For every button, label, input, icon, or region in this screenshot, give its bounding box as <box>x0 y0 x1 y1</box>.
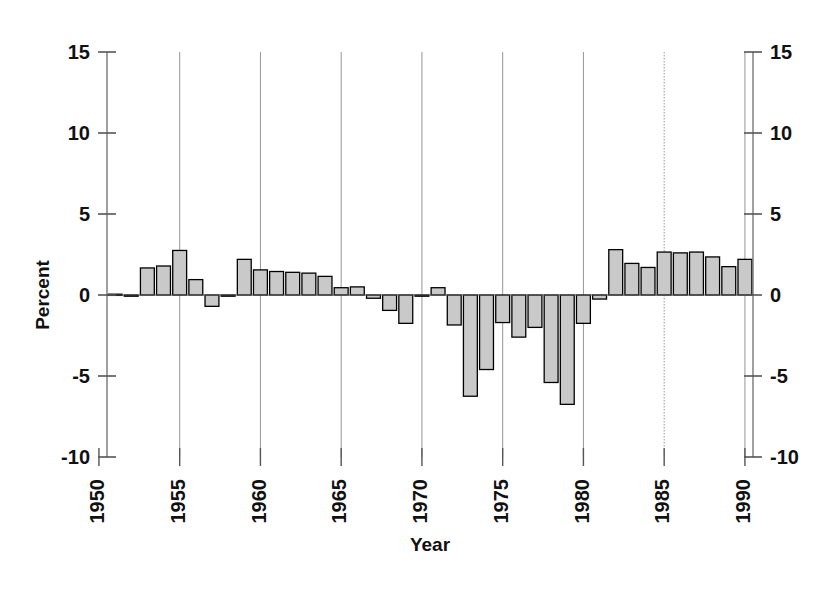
bar-1959 <box>237 259 251 295</box>
y-tick-label-left-10: 10 <box>68 122 90 144</box>
bar-1956 <box>189 280 203 295</box>
y-tick-label-right--5: -5 <box>770 365 788 387</box>
bar-1953 <box>140 268 154 295</box>
y-tick-label-left-15: 15 <box>68 41 90 63</box>
y-tick-label-right-15: 15 <box>770 41 792 63</box>
y-tick-label-right-0: 0 <box>770 284 781 306</box>
x-tick-label-1955: 1955 <box>167 479 189 524</box>
bar-1990 <box>738 259 752 295</box>
bar-1979 <box>560 295 574 404</box>
bar-1957 <box>205 295 219 306</box>
x-tick-label-1960: 1960 <box>248 479 270 523</box>
bar-1982 <box>609 250 623 295</box>
bar-1985 <box>657 252 671 295</box>
x-tick-label-1990: 1990 <box>732 479 754 524</box>
bar-1987 <box>690 252 704 295</box>
x-tick-label-1980: 1980 <box>571 479 593 524</box>
x-tick-label-1985: 1985 <box>651 479 673 524</box>
bar-1975 <box>496 295 510 323</box>
y-tick-label-left--5: -5 <box>72 365 90 387</box>
bar-1960 <box>253 270 267 295</box>
bar-1955 <box>173 250 187 295</box>
bar-1968 <box>383 295 397 310</box>
y-tick-label-left-0: 0 <box>79 284 90 306</box>
bar-1966 <box>350 287 364 295</box>
bar-1962 <box>286 272 300 295</box>
bar-1978 <box>544 295 558 382</box>
x-tick-label-1965: 1965 <box>328 479 350 523</box>
y-tick-label-left--10: -10 <box>61 446 90 468</box>
bar-1973 <box>463 295 477 396</box>
bar-1984 <box>641 267 655 295</box>
bar-1980 <box>576 295 590 323</box>
bar-1954 <box>157 266 171 295</box>
bar-1983 <box>625 263 639 295</box>
bar-1971 <box>431 288 445 295</box>
x-tick-label-1970: 1970 <box>409 479 431 524</box>
bar-1969 <box>399 295 413 323</box>
bar-1988 <box>706 257 720 295</box>
bar-1976 <box>512 295 526 337</box>
bar-1974 <box>480 295 494 370</box>
y-tick-label-left-5: 5 <box>79 203 90 225</box>
x-tick-label-1950: 1950 <box>86 479 108 524</box>
bar-1961 <box>270 272 284 295</box>
x-tick-label-1975: 1975 <box>490 479 512 524</box>
x-axis-title: Year <box>410 534 451 555</box>
y-axis-title: Percent <box>32 259 53 329</box>
bar-chart-svg: 151050-5-10 151050-5-10 1950195519601965… <box>0 0 837 594</box>
chart-figure: 151050-5-10 151050-5-10 1950195519601965… <box>0 0 837 594</box>
bar-1981 <box>593 295 607 299</box>
bar-1964 <box>318 276 332 295</box>
bar-1965 <box>334 288 348 295</box>
y-tick-label-right--10: -10 <box>770 446 799 468</box>
bar-1963 <box>302 273 316 295</box>
y-tick-label-right-10: 10 <box>770 122 792 144</box>
bar-1977 <box>528 295 542 327</box>
y-tick-label-right-5: 5 <box>770 203 781 225</box>
bar-1989 <box>722 267 736 295</box>
bar-1972 <box>447 295 461 325</box>
bar-1986 <box>673 253 687 295</box>
